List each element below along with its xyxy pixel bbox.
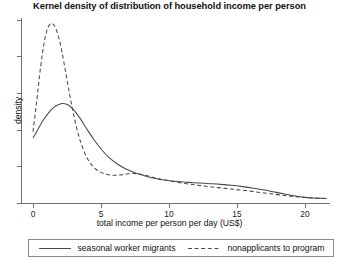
legend-key-dashed-line <box>187 244 221 253</box>
legend-label-nonapplicants-to-program: nonapplicants to program <box>227 243 324 253</box>
density-curve-dashed <box>33 23 327 198</box>
density-curve-solid <box>33 104 327 199</box>
x-axis-title: total income per person per day (US$) <box>0 218 339 228</box>
legend-entry-nonapplicants-to-program: nonapplicants to program <box>187 243 324 253</box>
legend-label-seasonal-worker-migrants: seasonal worker migrants <box>78 243 176 253</box>
legend-entry-seasonal-worker-migrants: seasonal worker migrants <box>38 243 176 253</box>
data-curves <box>33 23 327 198</box>
chart-legend: seasonal worker migrants nonapplicants t… <box>28 239 334 257</box>
axes <box>17 18 330 208</box>
legend-key-solid-line <box>38 244 72 253</box>
y-axis-title: density <box>13 97 23 124</box>
kernel-density-chart: Kernel density of distribution of househ… <box>0 0 339 261</box>
